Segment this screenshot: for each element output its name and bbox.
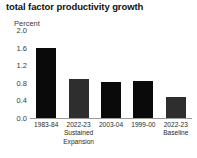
x-tick-line-1: 1999-00 bbox=[131, 121, 155, 128]
y-axis-tick-labels: 2.01.61.20.80.40.0 bbox=[0, 0, 27, 158]
bar bbox=[133, 81, 153, 118]
x-tick-line-3: Expansion bbox=[57, 138, 101, 146]
y-tick-label: 1.6 bbox=[17, 43, 27, 52]
x-axis-line bbox=[30, 118, 192, 119]
bar bbox=[101, 82, 121, 118]
y-tick-label: 1.2 bbox=[17, 61, 27, 70]
x-tick-line-1: 2022-23 bbox=[164, 121, 188, 128]
bar bbox=[166, 97, 186, 118]
bar bbox=[69, 79, 89, 118]
x-tick-line-1: 1983-84 bbox=[34, 121, 58, 128]
y-tick-label: 2.0 bbox=[17, 26, 27, 35]
chart-figure: total factor productivity growth Percent… bbox=[0, 0, 197, 158]
x-tick-line-1: 2022-23 bbox=[66, 121, 90, 128]
x-axis-tick-labels: 1983-842022-23SustainedExpansion2003-041… bbox=[30, 121, 197, 158]
x-tick-line-2: Sustained bbox=[57, 129, 101, 137]
x-tick-label: 2022-23Baseline bbox=[154, 121, 197, 138]
plot-area bbox=[30, 30, 192, 118]
y-tick-label: 0.8 bbox=[17, 78, 27, 87]
x-tick-line-1: 2003-04 bbox=[99, 121, 123, 128]
y-tick-label: 0.4 bbox=[17, 96, 27, 105]
x-tick-line-2: Baseline bbox=[154, 129, 197, 137]
bar bbox=[36, 48, 56, 118]
